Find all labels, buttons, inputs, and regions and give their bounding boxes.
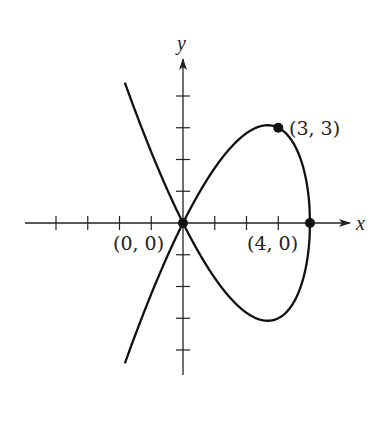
point-marker <box>273 123 283 133</box>
x-axis-label: x <box>355 212 365 234</box>
point-label: (3, 3) <box>289 117 340 139</box>
point-label: (4, 0) <box>247 232 298 254</box>
point-marker <box>305 218 315 228</box>
point-label: (0, 0) <box>113 232 164 254</box>
curve-plot: (0, 0)(3, 3)(4, 0) x y <box>0 0 376 421</box>
point-marker <box>178 218 188 228</box>
y-axis-label: y <box>175 32 186 55</box>
axes <box>25 59 350 375</box>
